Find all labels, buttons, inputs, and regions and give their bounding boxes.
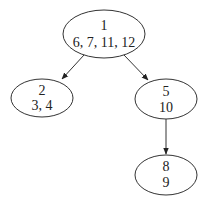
node-1-label-line1: 1 [101,18,108,33]
node-2: 2 3, 4 [11,79,73,117]
edge-1-to-5 [124,55,148,80]
node-5-label-line2: 10 [159,100,173,115]
edge-1-to-2 [62,55,84,79]
node-8-label-line1: 8 [163,159,170,174]
node-5: 5 10 [135,79,197,119]
node-5-label-line1: 5 [163,84,170,99]
node-8: 8 9 [135,155,197,195]
node-8-label-line2: 9 [163,175,170,190]
node-2-label-line2: 3, 4 [32,98,53,113]
tree-diagram: 1 6, 7, 11, 12 2 3, 4 5 10 8 9 [0,0,209,210]
node-2-label-line1: 2 [39,83,46,98]
node-1-label-line2: 6, 7, 11, 12 [73,35,135,50]
node-1: 1 6, 7, 11, 12 [63,10,145,58]
